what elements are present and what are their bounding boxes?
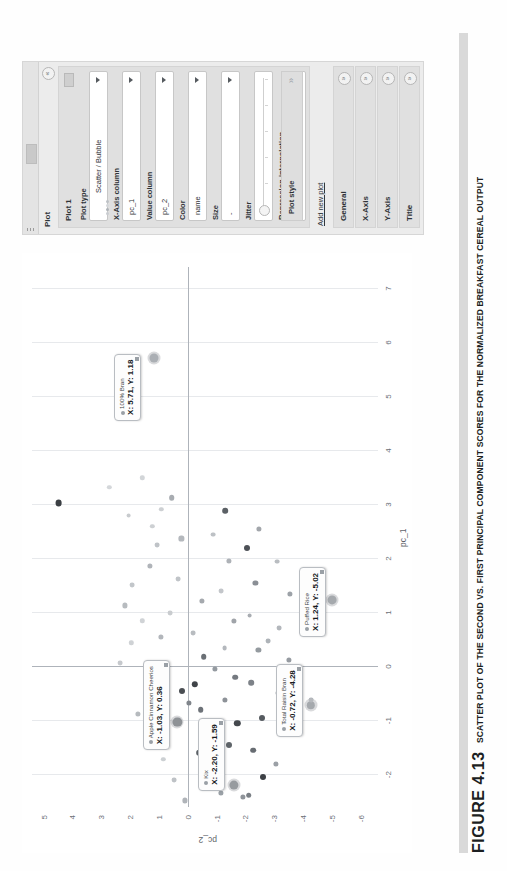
tooltip-resize-grip[interactable]: [320, 570, 324, 574]
scatter-point[interactable]: [155, 542, 160, 547]
scatter-point[interactable]: [246, 792, 252, 798]
expand-section-button[interactable]: »: [338, 72, 351, 85]
scatter-point[interactable]: [251, 748, 257, 754]
jitter-slider[interactable]: [254, 71, 273, 221]
tooltip-resize-grip[interactable]: [135, 357, 139, 361]
scatter-point[interactable]: [169, 495, 175, 501]
scatter-point[interactable]: [199, 598, 204, 603]
add-new-plot-link[interactable]: Add new plot: [316, 183, 325, 226]
tooltip-resize-grip[interactable]: [219, 721, 223, 725]
scatter-point[interactable]: [234, 720, 240, 726]
scatter-point[interactable]: [223, 698, 228, 703]
gridline-vertical: [32, 450, 378, 451]
scatter-point[interactable]: [232, 675, 238, 681]
scatter-point[interactable]: [140, 475, 144, 479]
scatter-point[interactable]: [192, 681, 198, 687]
scatter-point[interactable]: [265, 638, 270, 643]
scatter-point[interactable]: [231, 618, 236, 623]
section-title[interactable]: Title»: [399, 66, 420, 228]
scatter-point[interactable]: [150, 524, 154, 528]
scatter-point[interactable]: [244, 545, 250, 551]
scatter-point[interactable]: [147, 564, 152, 569]
scatter-point[interactable]: [273, 761, 278, 766]
select-plot-type[interactable]: Scatter / Bubble: [89, 71, 108, 221]
scatter-point[interactable]: [287, 591, 292, 596]
scatter-point[interactable]: [126, 513, 131, 518]
section-general[interactable]: General»: [333, 66, 354, 228]
point-tooltip[interactable]: Total Raisin BranX: -0.72, Y: -4.28: [276, 664, 303, 737]
panel-header[interactable]: [23, 62, 39, 234]
tooltip-resize-grip[interactable]: [297, 667, 301, 671]
scatter-point[interactable]: [159, 507, 163, 511]
chevron-right-icon: »: [286, 78, 296, 83]
scatter-point[interactable]: [259, 715, 265, 721]
scatter-point[interactable]: [130, 582, 135, 587]
point-tooltip[interactable]: 100% BranX: 5.71, Y: 1.18: [114, 354, 141, 421]
scatter-point[interactable]: [286, 658, 291, 663]
scatter-point[interactable]: [226, 559, 231, 564]
tooltip-bullet-icon: [282, 727, 286, 731]
scatter-point[interactable]: [122, 603, 127, 608]
expand-section-button[interactable]: »: [382, 72, 395, 85]
tooltip-resize-grip[interactable]: [164, 663, 168, 667]
scatter-point[interactable]: [187, 701, 192, 706]
scatter-point[interactable]: [212, 667, 217, 672]
scatter-point[interactable]: [190, 631, 195, 636]
gridline-vertical: [32, 558, 378, 559]
select-size[interactable]: -: [221, 71, 240, 221]
scatter-point[interactable]: [182, 798, 187, 803]
scatter-point[interactable]: [129, 641, 133, 645]
scatter-point[interactable]: [179, 536, 184, 541]
scatter-point[interactable]: [201, 654, 207, 660]
plot-settings-panel[interactable]: Plot « Plot 1 Plot typeScatter / BubbleX…: [22, 61, 424, 235]
scatter-point[interactable]: [253, 580, 258, 585]
plot-style-label: Plot style: [287, 181, 296, 214]
slider-knob[interactable]: [259, 205, 270, 216]
scatter-point[interactable]: [140, 619, 144, 623]
scatter-point[interactable]: [275, 559, 280, 564]
select-color[interactable]: name: [188, 71, 207, 221]
expand-section-button[interactable]: »: [404, 72, 417, 85]
scatter-point[interactable]: [159, 634, 164, 639]
expand-section-button[interactable]: »: [360, 72, 373, 85]
scatter-point[interactable]: [175, 577, 180, 582]
scatter-plot[interactable]: -2-101234567543210-1-2-3-4-5-6 100% Bran…: [22, 253, 412, 853]
collapse-panel-button[interactable]: «: [42, 67, 55, 80]
scatter-point[interactable]: [118, 660, 123, 665]
section-label: General: [339, 191, 348, 221]
section-x-axis[interactable]: X-Axis»: [355, 66, 376, 228]
scatter-point[interactable]: [136, 712, 141, 717]
hamburger-menu-icon[interactable]: [64, 73, 74, 87]
tooltip-bullet-icon: [305, 627, 309, 631]
scatter-point[interactable]: [218, 791, 223, 796]
tooltip-series-name: Puffed Rice: [303, 573, 311, 631]
scatter-point[interactable]: [179, 688, 185, 694]
scatter-point[interactable]: [107, 485, 111, 489]
point-tooltip[interactable]: Puffed RiceX: 1.24, Y: -5.02: [299, 567, 326, 637]
scatter-point[interactable]: [240, 795, 245, 800]
scatter-point[interactable]: [277, 625, 282, 630]
scatter-point[interactable]: [260, 774, 266, 780]
scatter-point[interactable]: [211, 532, 216, 537]
scatter-point[interactable]: [248, 680, 254, 686]
select-value-column[interactable]: pc_2: [155, 71, 174, 221]
plot-style-bar[interactable]: Plot style »: [281, 71, 303, 221]
scatter-point[interactable]: [55, 500, 62, 507]
scatter-point[interactable]: [167, 610, 172, 615]
scatter-point[interactable]: [247, 613, 252, 618]
scatter-point[interactable]: [226, 742, 232, 748]
scatter-point[interactable]: [256, 648, 261, 653]
scatter-point[interactable]: [198, 707, 204, 713]
point-tooltip[interactable]: Apple Cinnamon CheeriosX: -1.03, Y: 0.36: [143, 660, 170, 750]
point-tooltip[interactable]: KixX: -2.20, Y: -1.59: [198, 718, 225, 791]
section-y-axis[interactable]: Y-Axis»: [377, 66, 398, 228]
scatter-point[interactable]: [257, 526, 262, 531]
grip-icon: [27, 228, 35, 231]
scatter-point[interactable]: [161, 757, 165, 761]
select-x-axis-column[interactable]: pc_1: [122, 71, 141, 221]
horizontal-scrollbar-thumb[interactable]: [26, 144, 37, 164]
scatter-point[interactable]: [218, 589, 223, 594]
scatter-point[interactable]: [222, 645, 227, 650]
scatter-point[interactable]: [222, 508, 228, 514]
scatter-point[interactable]: [171, 778, 176, 783]
